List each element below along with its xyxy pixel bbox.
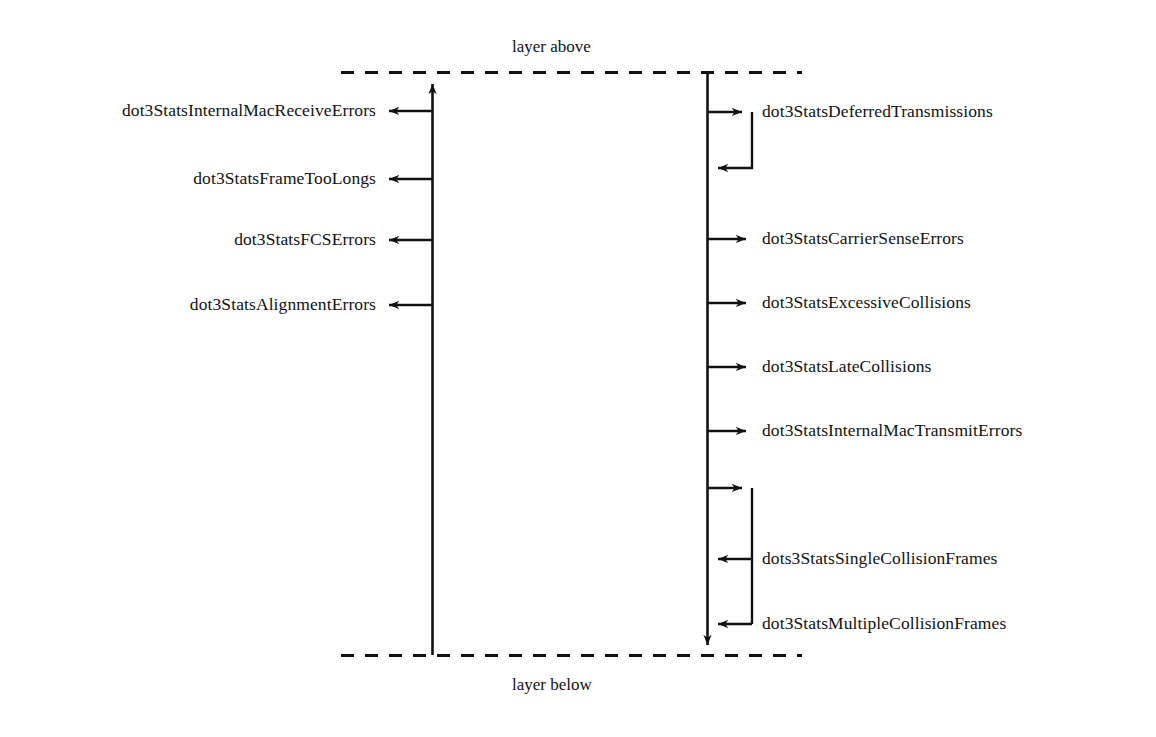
label-dot3statsinternalmacreceiveerrors: dot3StatsInternalMacReceiveErrors (122, 102, 376, 120)
label-dot3statsmultiplecollisionframes: dot3StatsMultipleCollisionFrames (762, 615, 1006, 633)
loop-deferred-transmissions-return (718, 112, 752, 168)
label-dots3statssinglecollisionframes: dots3StatsSingleCollisionFrames (762, 550, 997, 568)
layer-above-label: layer above (512, 38, 591, 55)
label-dot3statsalignmenterrors: dot3StatsAlignmentErrors (190, 296, 376, 314)
label-dot3statslatecollisions: dot3StatsLateCollisions (762, 358, 932, 376)
label-dot3statscarriersenseerrors: dot3StatsCarrierSenseErrors (762, 230, 964, 248)
layer-below-label: layer below (512, 676, 592, 693)
label-dot3statsdeferredtransmissions: dot3StatsDeferredTransmissions (762, 103, 993, 121)
label-dot3statsexcessivecollisions: dot3StatsExcessiveCollisions (762, 294, 971, 312)
diagram-canvas: layer above layer below dot3StatsInterna… (0, 0, 1156, 737)
label-dot3statsfcserrors: dot3StatsFCSErrors (234, 231, 376, 249)
label-dot3statsinternalmactransmiterrors: dot3StatsInternalMacTransmitErrors (762, 422, 1022, 440)
label-dot3statsframetoolongs: dot3StatsFrameTooLongs (193, 170, 376, 188)
